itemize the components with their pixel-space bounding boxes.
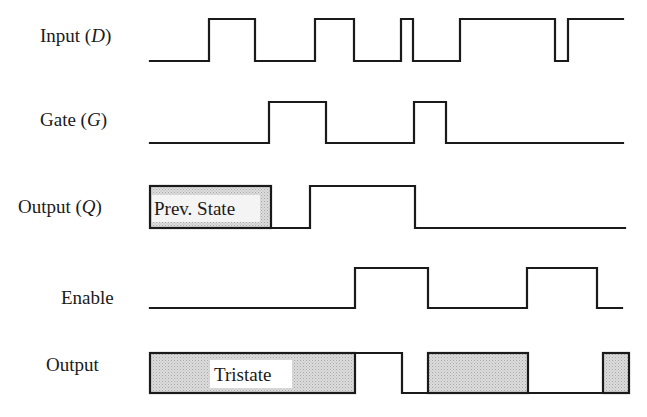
prev-state-label: Prev. State	[154, 198, 235, 219]
waveform-input-d	[150, 19, 623, 61]
tristate-box-2	[428, 353, 528, 393]
timing-diagram: Input (D) Gate (G) Output (Q) Prev. Stat…	[0, 0, 647, 417]
signal-label-gate-g: Gate (G)	[40, 109, 107, 131]
waveform-gate-g	[150, 102, 623, 143]
waveform-enable	[150, 268, 622, 308]
tristate-label: Tristate	[214, 364, 271, 385]
tristate-box-3	[603, 353, 629, 393]
signal-label-output-q: Output (Q)	[18, 196, 102, 218]
signal-output-q: Output (Q) Prev. State	[18, 186, 625, 228]
waveform-output-q	[271, 186, 625, 228]
signal-label-output: Output	[46, 354, 100, 375]
signal-input-d: Input (D)	[40, 19, 623, 61]
signal-label-enable: Enable	[61, 287, 114, 308]
signal-enable: Enable	[61, 268, 622, 308]
signal-label-input-d: Input (D)	[40, 25, 111, 47]
signal-output: Output Tristate	[46, 353, 629, 393]
signal-gate-g: Gate (G)	[40, 102, 623, 143]
